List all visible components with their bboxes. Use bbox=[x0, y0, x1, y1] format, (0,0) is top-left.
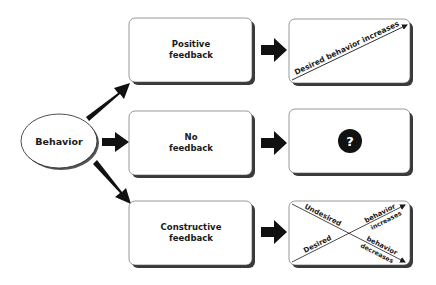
question-mark: ? bbox=[346, 134, 354, 149]
behavior-label: Behavior bbox=[35, 136, 83, 147]
none-line2: feedback bbox=[169, 143, 213, 153]
arrow-none-outcome bbox=[261, 131, 287, 155]
arrow-positive-outcome bbox=[261, 38, 287, 62]
positive-line2: feedback bbox=[169, 50, 213, 60]
constructive-line1: Constructive bbox=[161, 222, 222, 232]
arrow-constructive-outcome bbox=[261, 220, 287, 244]
positive-feedback-box: Positive feedback bbox=[129, 18, 255, 85]
outcome-increase-box: Desired behavior increases bbox=[289, 19, 413, 86]
outcome-unknown-box: ? bbox=[289, 109, 413, 176]
none-line1: No bbox=[185, 132, 198, 142]
arrow-to-none bbox=[102, 132, 129, 152]
arrow-to-constructive bbox=[93, 160, 131, 204]
arrow-to-positive bbox=[86, 83, 130, 121]
feedback-diagram: Behavior Positive feedback No feedback C… bbox=[0, 0, 436, 285]
positive-line1: Positive bbox=[172, 39, 211, 49]
no-feedback-box: No feedback bbox=[129, 111, 255, 178]
outcome-cross-box: Undesired Desired behavior increases beh… bbox=[289, 201, 413, 268]
constructive-line2: feedback bbox=[169, 233, 213, 243]
behavior-node: Behavior bbox=[21, 114, 99, 170]
constructive-feedback-box: Constructive feedback bbox=[129, 201, 255, 268]
